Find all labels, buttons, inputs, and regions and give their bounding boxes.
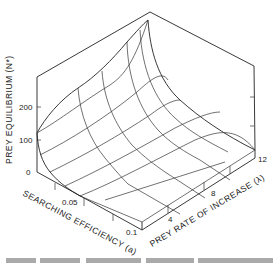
- plot-frame: [37, 12, 255, 172]
- y-tick-4: 4: [168, 215, 173, 224]
- x-tick-0.1: 0.1: [126, 228, 138, 237]
- x-tick-0.05: 0.05: [62, 198, 78, 207]
- z-tick-0: 0: [26, 168, 31, 177]
- z-axis-label: PREY EQUILIBRIUM (N*): [4, 55, 14, 164]
- y-axis-label: PREY RATE OF INCREASE (λ): [148, 172, 266, 249]
- surface-plot: 200 100 0 PREY EQUILIBRIUM (N*) 0.05 0.1…: [0, 0, 280, 263]
- z-tick-100: 100: [19, 136, 33, 145]
- x-axis-label: SEARCHING EFFICIENCY (a): [21, 188, 139, 257]
- surface-plot-figure: 200 100 0 PREY EQUILIBRIUM (N*) 0.05 0.1…: [0, 0, 280, 263]
- caption-cutoff: [6, 258, 273, 263]
- z-tick-200: 200: [19, 103, 33, 112]
- surface-wireframe: [37, 20, 255, 222]
- y-tick-8: 8: [211, 189, 216, 198]
- y-tick-12: 12: [258, 155, 267, 164]
